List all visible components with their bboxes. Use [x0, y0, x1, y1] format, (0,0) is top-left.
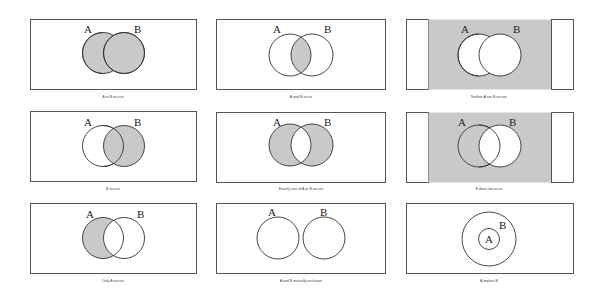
venn-diagram: A B: [0, 100, 200, 200]
caption: A or B occurs: [102, 95, 123, 99]
label-a: A: [461, 23, 469, 35]
label-a: A: [268, 206, 276, 218]
label-b: B: [324, 116, 331, 128]
caption: Only A occurs: [102, 279, 124, 283]
label-b: B: [134, 116, 141, 128]
venn-diagram: A B: [200, 198, 400, 298]
venn-panel-only-a: A B Only A occurs: [0, 198, 200, 298]
venn-panel-b-occurs: A B B occurs: [0, 100, 200, 200]
venn-diagram: A B: [200, 0, 400, 100]
caption: Exactly one of A or B occurs: [279, 187, 324, 191]
label-a: A: [458, 116, 466, 128]
label-a: A: [86, 208, 94, 220]
venn-diagram: A B: [200, 100, 400, 200]
circle-b: [104, 126, 145, 167]
label-b: B: [320, 206, 327, 218]
caption: Neither A nor B occurs: [471, 95, 507, 99]
venn-diagram: A B: [0, 0, 200, 100]
venn-panel-a-and-b: A B A and B occur: [200, 0, 400, 100]
circle-b: [479, 34, 521, 76]
venn-diagram: A B: [400, 100, 605, 200]
venn-panel-a-or-b: A B A or B occurs: [0, 0, 200, 100]
caption: A and B occur: [290, 95, 312, 99]
caption: A and B mutually exclusive: [280, 279, 323, 283]
margin-strip-right: [552, 20, 574, 90]
label-b: B: [509, 116, 516, 128]
label-a: A: [273, 116, 281, 128]
label-b: B: [137, 208, 144, 220]
margin-strip-left: [407, 20, 429, 90]
label-b: B: [324, 23, 331, 35]
sample-space-frame: [217, 204, 386, 274]
label-b: B: [513, 23, 520, 35]
venn-panel-exactly-one: A B Exactly one of A or B occurs: [200, 100, 400, 200]
caption: B occurs: [106, 187, 120, 191]
margin-strip-right: [552, 113, 574, 183]
caption: A implies B: [480, 279, 498, 283]
venn-panel-neither: A B Neither A nor B occurs: [400, 0, 605, 100]
label-a: A: [84, 23, 92, 35]
venn-diagram: A B: [0, 198, 200, 298]
venn-panel-b-not: A B B does not occur: [400, 100, 605, 200]
label-b: B: [499, 219, 506, 231]
venn-panel-mutually-exclusive: A B A and B mutually exclusive: [200, 198, 400, 298]
venn-panel-a-implies-b: A B A implies B: [400, 198, 605, 298]
label-a: A: [273, 23, 281, 35]
caption: B does not occur: [476, 187, 503, 191]
venn-diagram: A B: [400, 198, 605, 298]
label-b: B: [134, 23, 141, 35]
label-a: A: [84, 116, 92, 128]
label-a: A: [485, 233, 493, 245]
venn-diagram: A B: [400, 0, 605, 100]
margin-strip-left: [407, 113, 429, 183]
